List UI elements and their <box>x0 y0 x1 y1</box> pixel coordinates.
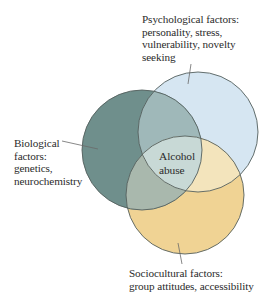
biological-label-line-3: genetics, <box>14 162 82 175</box>
psychological-label-line-3: vulnerability, novelty <box>142 38 239 51</box>
psychological-label-line-4: seeking <box>142 51 239 64</box>
psychological-label-line-2: personality, stress, <box>142 26 239 39</box>
sociocultural-label-line-1: Sociocultural factors: <box>129 267 254 280</box>
sociocultural-factors-label: Sociocultural factors: group attitudes, … <box>129 267 254 292</box>
center-label-line-1: Alcohol <box>159 149 195 163</box>
biological-label-line-1: Biological <box>14 137 82 150</box>
sociocultural-label-line-2: group attitudes, accessibility <box>129 280 254 293</box>
biological-label-line-4: neurochemistry <box>14 175 82 188</box>
psychological-factors-label: Psychological factors: personality, stre… <box>142 13 239 63</box>
biological-factors-label: Biological factors: genetics, neurochemi… <box>14 137 82 187</box>
center-label-line-2: abuse <box>159 163 195 177</box>
biological-label-line-2: factors: <box>14 150 82 163</box>
alcohol-abuse-label: Alcohol abuse <box>159 149 195 177</box>
psychological-label-line-1: Psychological factors: <box>142 13 239 26</box>
